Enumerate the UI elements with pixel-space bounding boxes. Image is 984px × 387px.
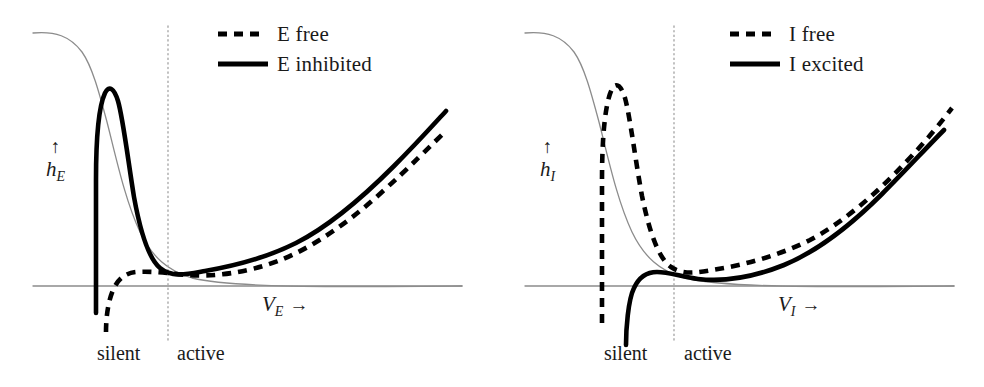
panel-excitatory: ↑ hE VE→ silent active E free E inhibite…: [0, 0, 492, 387]
x-axis-arrow-right: →: [289, 294, 308, 315]
y-axis-label-subscript: E: [57, 169, 66, 184]
region-label-active: active: [177, 343, 225, 363]
legend-label-i-excited: I excited: [789, 52, 864, 77]
legend-item-e-free[interactable]: E free: [216, 22, 372, 46]
x-axis-label-subscript: I: [791, 304, 796, 319]
y-axis-label-subscript: I: [551, 169, 556, 184]
region-label-silent: silent: [97, 343, 140, 363]
region-label-silent: silent: [604, 343, 647, 363]
curve-i-free: [602, 85, 952, 323]
y-axis-label-text: h: [540, 157, 551, 181]
y-axis-arrow-up: ↑: [540, 137, 555, 156]
region-label-active: active: [684, 343, 732, 363]
x-axis-label-text: V: [778, 292, 791, 316]
x-axis-label-ve: VE→: [262, 294, 308, 319]
figure-root: ↑ hE VE→ silent active E free E inhibite…: [0, 0, 984, 387]
x-axis-label-text: V: [262, 292, 275, 316]
legend-label-e-inhibited: E inhibited: [277, 52, 372, 77]
x-axis-label-subscript: E: [275, 304, 284, 319]
legend-swatch-solid-icon: [216, 55, 268, 73]
legend-inhibitory: I free I excited: [728, 22, 864, 76]
y-axis-label-hi: ↑ hI: [540, 137, 555, 184]
y-axis-arrow-up: ↑: [46, 137, 65, 156]
y-axis-label-text: h: [46, 157, 57, 181]
legend-label-e-free: E free: [277, 22, 329, 47]
legend-swatch-dashed-icon: [216, 25, 268, 43]
legend-excitatory: E free E inhibited: [216, 22, 372, 76]
x-axis-label-vi: VI→: [778, 294, 821, 319]
x-axis-arrow-right: →: [802, 294, 821, 315]
legend-item-e-inhibited[interactable]: E inhibited: [216, 52, 372, 76]
panel-inhibitory: ↑ hI VI→ silent active I free I excited: [492, 0, 984, 387]
legend-item-i-excited[interactable]: I excited: [728, 52, 864, 76]
legend-swatch-solid-icon: [728, 55, 780, 73]
legend-label-i-free: I free: [789, 22, 835, 47]
y-axis-label-he: ↑ hE: [46, 137, 65, 184]
curve-e-inhibited: [96, 89, 446, 313]
legend-swatch-dashed-icon: [728, 25, 780, 43]
legend-item-i-free[interactable]: I free: [728, 22, 864, 46]
